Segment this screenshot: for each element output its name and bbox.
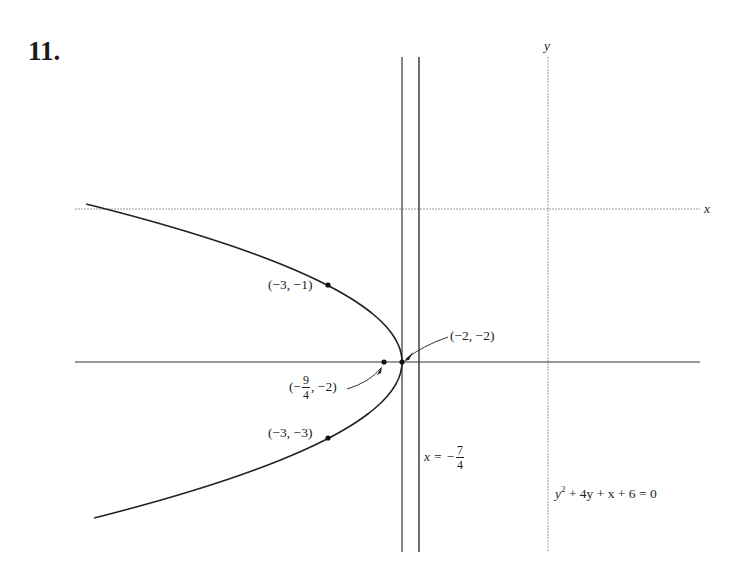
vertex-arrowhead-icon [404, 352, 413, 361]
parabola-curve [86, 204, 402, 518]
focus-label-prefix: (− [289, 379, 301, 394]
point-label-minus3-minus1: (−3, −1) [268, 277, 312, 293]
focus-fraction-den: 4 [303, 388, 309, 401]
vertex-point [399, 359, 404, 364]
vertex-label: (−2, −2) [450, 328, 494, 344]
directrix-label: x = −74 [424, 444, 465, 471]
equation-label: y2 + 4y + x + 6 = 0 [555, 484, 657, 502]
point-minus3-minus3 [325, 435, 330, 440]
vertex-arrow [406, 337, 448, 359]
equation-rest: + 4y + x + 6 = 0 [566, 486, 657, 501]
point-minus3-minus1 [325, 282, 330, 287]
directrix-fraction: 74 [456, 444, 464, 471]
focus-label-suffix: , −2) [311, 379, 337, 394]
directrix-fraction-den: 4 [457, 458, 463, 471]
focus-arrowhead-icon [377, 366, 382, 375]
directrix-label-prefix: x = − [424, 449, 455, 464]
directrix-fraction-num: 7 [456, 444, 464, 458]
focus-fraction-num: 9 [302, 374, 310, 388]
point-label-minus3-minus3: (−3, −3) [268, 425, 312, 441]
focus-fraction: 94 [302, 374, 310, 401]
focus-point [381, 359, 386, 364]
focus-label: (−94, −2) [289, 374, 337, 401]
focus-arrow [347, 368, 381, 389]
x-axis-label: x [704, 201, 710, 217]
y-axis-label: y [544, 38, 550, 54]
